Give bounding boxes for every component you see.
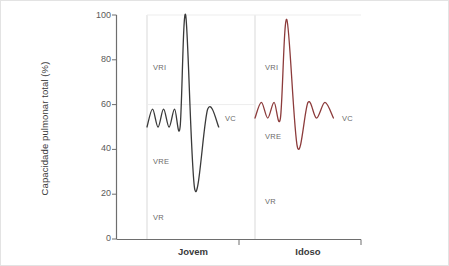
- annotation-vr-jovem: VR: [153, 213, 164, 222]
- annotation-vri-idoso: VRI: [265, 63, 278, 72]
- annotation-vre-idoso: VRE: [265, 132, 281, 141]
- y-axis-ticks: [112, 15, 117, 239]
- annotation-vre-jovem: VRE: [153, 157, 169, 166]
- plot-area: [1, 1, 449, 266]
- x-axis-category-jovem: Jovem: [147, 246, 239, 257]
- series-line-idoso: [255, 19, 333, 149]
- annotation-vri-jovem: VRI: [153, 63, 166, 72]
- x-axis-category-idoso: Idoso: [255, 246, 361, 257]
- annotation-vc-idoso: VC: [342, 114, 353, 123]
- x-axis-ticks: [239, 240, 361, 246]
- annotation-vc-jovem: VC: [225, 114, 236, 123]
- chart-figure: Capacidade pulmonar total (%) 100 80 60 …: [0, 0, 449, 266]
- annotation-vr-idoso: VR: [265, 197, 276, 206]
